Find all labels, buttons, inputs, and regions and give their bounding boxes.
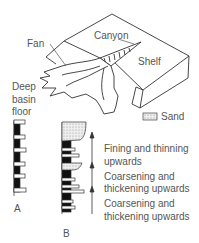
label-fan: Fan [27,38,44,49]
label-canyon: Canyon [94,30,128,41]
sand-legend-swatch [143,113,157,120]
label-column-b: B [63,228,70,239]
legend-sand-label: Sand [161,111,184,122]
label-deep-basin-floor-3: floor [12,106,31,117]
fan-lobe [40,44,118,114]
sequence-3-line2: thickening upwards [104,211,190,222]
sequence-2-line2: thickening upwards [104,183,190,194]
sequence-2-line1: Coarsening and [104,171,175,182]
label-deep-basin-floor-2: basin [12,94,36,105]
column-a-log [14,120,26,196]
sequence-1-line2: upwards [104,156,142,167]
label-shelf: Shelf [138,56,161,67]
label-column-a: A [14,203,21,214]
sequence-1-line1: Fining and thinning [104,143,189,154]
sequence-3-line1: Coarsening and [104,198,175,209]
sequence-arrows [90,132,94,214]
label-deep-basin-floor-1: Deep [12,81,36,92]
column-b-log [62,122,86,214]
